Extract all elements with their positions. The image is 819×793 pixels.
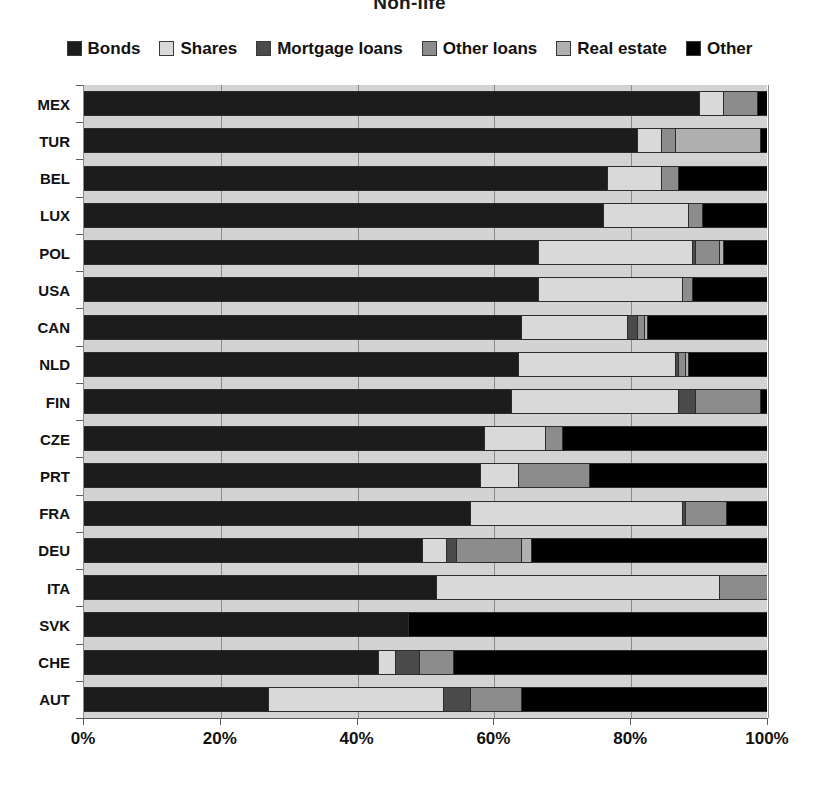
bar-segment-bonds[interactable]: [84, 463, 480, 488]
bar-segment-other-loans[interactable]: [695, 240, 719, 265]
bar-segment-bonds[interactable]: [84, 575, 436, 600]
bar-segment-bonds[interactable]: [84, 166, 607, 191]
bar-segment-other[interactable]: [692, 277, 767, 302]
bar-segment-other[interactable]: [726, 501, 767, 526]
bar-row[interactable]: [84, 687, 767, 712]
legend-swatch-icon: [686, 41, 701, 56]
bar-segment-other-loans[interactable]: [661, 166, 678, 191]
bar-segment-other-loans[interactable]: [637, 315, 644, 340]
bar-segment-other[interactable]: [757, 91, 767, 116]
bar-segment-real-estate[interactable]: [521, 538, 531, 563]
legend-item-other[interactable]: Other: [686, 40, 752, 57]
bar-segment-bonds[interactable]: [84, 128, 637, 153]
bar-row[interactable]: [84, 463, 767, 488]
bar-row[interactable]: [84, 203, 767, 228]
bar-segment-shares[interactable]: [518, 352, 675, 377]
bar-segment-bonds[interactable]: [84, 426, 484, 451]
bar-segment-shares[interactable]: [511, 389, 678, 414]
bar-segment-shares[interactable]: [521, 315, 627, 340]
y-tick: [76, 346, 83, 347]
bar-segment-other-loans[interactable]: [685, 501, 726, 526]
bar-segment-other[interactable]: [562, 426, 767, 451]
bar-segment-other[interactable]: [647, 315, 767, 340]
legend-item-bonds[interactable]: Bonds: [67, 40, 141, 57]
bar-row[interactable]: [84, 426, 767, 451]
legend-item-shares[interactable]: Shares: [159, 40, 237, 57]
bar-row[interactable]: [84, 240, 767, 265]
bar-segment-mortgage-loans[interactable]: [395, 650, 419, 675]
bar-row[interactable]: [84, 612, 767, 637]
bar-segment-other-loans[interactable]: [518, 463, 590, 488]
bar-segment-real-estate[interactable]: [675, 128, 760, 153]
bar-segment-other-loans[interactable]: [470, 687, 521, 712]
bar-segment-bonds[interactable]: [84, 277, 538, 302]
bar-row[interactable]: [84, 277, 767, 302]
bar-segment-mortgage-loans[interactable]: [443, 687, 470, 712]
bar-segment-other-loans[interactable]: [688, 203, 702, 228]
bar-segment-other[interactable]: [760, 128, 767, 153]
bar-segment-bonds[interactable]: [84, 501, 470, 526]
bar-segment-mortgage-loans[interactable]: [627, 315, 637, 340]
bar-row[interactable]: [84, 352, 767, 377]
chart-legend: BondsSharesMortgage loansOther loansReal…: [0, 40, 819, 57]
bar-segment-other[interactable]: [531, 538, 767, 563]
bar-segment-bonds[interactable]: [84, 91, 699, 116]
y-tick: [76, 122, 83, 123]
bar-row[interactable]: [84, 650, 767, 675]
bar-segment-other[interactable]: [453, 650, 767, 675]
bar-segment-bonds[interactable]: [84, 612, 408, 637]
bar-row[interactable]: [84, 575, 767, 600]
bar-segment-other-loans[interactable]: [661, 128, 675, 153]
bar-segment-shares[interactable]: [603, 203, 688, 228]
bar-row[interactable]: [84, 166, 767, 191]
bar-segment-shares[interactable]: [480, 463, 518, 488]
bar-segment-shares[interactable]: [436, 575, 719, 600]
bar-segment-bonds[interactable]: [84, 352, 518, 377]
bar-segment-other-loans[interactable]: [456, 538, 521, 563]
bar-segment-bonds[interactable]: [84, 203, 603, 228]
bar-segment-other-loans[interactable]: [719, 575, 767, 600]
legend-item-mortgage-loans[interactable]: Mortgage loans: [256, 40, 403, 57]
bar-segment-other[interactable]: [521, 687, 767, 712]
bar-segment-bonds[interactable]: [84, 687, 268, 712]
bar-segment-other-loans[interactable]: [545, 426, 562, 451]
bar-segment-shares[interactable]: [484, 426, 545, 451]
bar-segment-other-loans[interactable]: [419, 650, 453, 675]
bar-segment-bonds[interactable]: [84, 650, 378, 675]
bar-segment-shares[interactable]: [422, 538, 446, 563]
bar-segment-other-loans[interactable]: [695, 389, 760, 414]
x-tick-label: 20%: [203, 729, 237, 749]
bar-segment-other-loans[interactable]: [723, 91, 757, 116]
bar-row[interactable]: [84, 315, 767, 340]
bar-segment-other[interactable]: [723, 240, 767, 265]
bar-segment-shares[interactable]: [699, 91, 723, 116]
bar-segment-shares[interactable]: [538, 240, 692, 265]
bar-row[interactable]: [84, 128, 767, 153]
bar-segment-other-loans[interactable]: [682, 277, 692, 302]
bar-segment-other-loans[interactable]: [678, 352, 685, 377]
bar-segment-shares[interactable]: [268, 687, 442, 712]
bar-segment-mortgage-loans[interactable]: [446, 538, 456, 563]
bar-segment-shares[interactable]: [538, 277, 681, 302]
bar-segment-other[interactable]: [688, 352, 767, 377]
bar-segment-other[interactable]: [702, 203, 767, 228]
bar-row[interactable]: [84, 538, 767, 563]
bar-segment-bonds[interactable]: [84, 389, 511, 414]
bar-segment-mortgage-loans[interactable]: [678, 389, 695, 414]
bar-segment-other[interactable]: [408, 612, 767, 637]
bar-segment-bonds[interactable]: [84, 240, 538, 265]
bar-row[interactable]: [84, 91, 767, 116]
bar-segment-shares[interactable]: [470, 501, 682, 526]
bar-segment-other[interactable]: [589, 463, 767, 488]
bar-segment-shares[interactable]: [607, 166, 662, 191]
bar-segment-other[interactable]: [760, 389, 767, 414]
bar-segment-shares[interactable]: [378, 650, 395, 675]
bar-row[interactable]: [84, 389, 767, 414]
bar-segment-other[interactable]: [678, 166, 767, 191]
legend-item-other-loans[interactable]: Other loans: [422, 40, 537, 57]
bar-segment-bonds[interactable]: [84, 315, 521, 340]
bar-segment-bonds[interactable]: [84, 538, 422, 563]
bar-row[interactable]: [84, 501, 767, 526]
bar-segment-shares[interactable]: [637, 128, 661, 153]
legend-item-real-estate[interactable]: Real estate: [556, 40, 667, 57]
